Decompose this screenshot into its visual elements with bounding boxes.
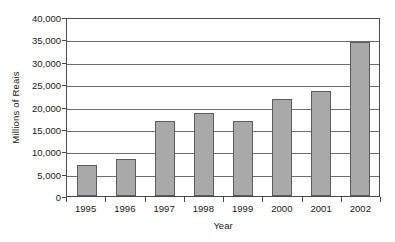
- y-axis-tick-label: 0: [5, 192, 61, 203]
- bar-chart: Millions of Reais 05,00010,00015,00020,0…: [0, 0, 395, 242]
- bar-1998: [194, 113, 214, 196]
- x-axis-tick-label: 1999: [223, 203, 262, 214]
- x-axis-tick-label: 1995: [66, 203, 105, 214]
- x-axis-tickmark: [223, 197, 224, 202]
- x-axis-tickmark: [262, 197, 263, 202]
- bar-2002: [350, 42, 370, 196]
- bar-1995: [77, 165, 97, 196]
- plot-area: [66, 18, 380, 197]
- bar-slot: [223, 19, 262, 196]
- x-axis-tickmark: [145, 197, 146, 202]
- y-axis-tick-label: 40,000: [5, 13, 61, 24]
- bar-slot: [340, 19, 379, 196]
- bar-slot: [301, 19, 340, 196]
- bar-slot: [184, 19, 223, 196]
- x-axis-tickmark: [184, 197, 185, 202]
- x-axis-tickmark: [66, 197, 67, 202]
- x-axis-tick-label: 2002: [341, 203, 380, 214]
- y-axis-tick-label: 20,000: [5, 102, 61, 113]
- y-axis-tick-label: 15,000: [5, 124, 61, 135]
- bar-slot: [67, 19, 106, 196]
- x-axis-tickmark: [302, 197, 303, 202]
- y-axis-tick-label: 25,000: [5, 80, 61, 91]
- y-axis-tick-label: 5,000: [5, 169, 61, 180]
- bar-2000: [272, 99, 292, 196]
- x-axis-tickmark: [380, 197, 381, 202]
- x-axis-tick-label: 2001: [302, 203, 341, 214]
- bar-2001: [311, 91, 331, 196]
- x-axis-tick-label: 2000: [262, 203, 301, 214]
- bar-slot: [262, 19, 301, 196]
- x-axis-tickmark: [341, 197, 342, 202]
- y-axis-tick-label: 10,000: [5, 147, 61, 158]
- bar-slot: [106, 19, 145, 196]
- bar-1999: [233, 121, 253, 196]
- bar-1997: [155, 121, 175, 196]
- x-axis-tick-label: 1998: [184, 203, 223, 214]
- x-axis-tick-labels: 19951996199719981999200020012002: [66, 203, 380, 214]
- bar-series: [67, 19, 379, 196]
- y-axis-tick-label: 35,000: [5, 35, 61, 46]
- bar-slot: [145, 19, 184, 196]
- y-axis-tick-label: 30,000: [5, 57, 61, 68]
- x-axis-tick-label: 1997: [145, 203, 184, 214]
- x-axis-tick-label: 1996: [105, 203, 144, 214]
- x-axis-title: Year: [66, 220, 380, 231]
- x-axis-tickmark: [105, 197, 106, 202]
- bar-1996: [116, 159, 136, 196]
